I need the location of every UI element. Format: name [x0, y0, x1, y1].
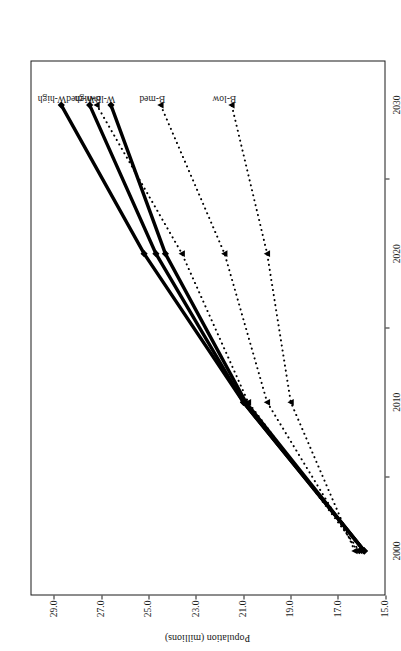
series-label-w-high: W-high — [37, 93, 66, 103]
y-tick-mark — [148, 595, 149, 599]
x-tick-label: 2030 — [392, 95, 401, 114]
series-label-b-med: B-med — [139, 93, 165, 103]
data-point-marker — [287, 398, 293, 405]
y-tick-mark — [337, 595, 338, 599]
series-line — [231, 105, 354, 551]
series-label-b-low: B-low — [212, 93, 236, 103]
series-w-med — [86, 101, 368, 554]
rotated-chart-canvas: 29.027.025.023.021.019.017.015.0 2000201… — [0, 0, 401, 651]
series-b-low — [228, 101, 357, 554]
x-minor-tick-mark — [385, 327, 389, 328]
x-minor-tick-mark — [385, 476, 389, 477]
data-point-marker — [263, 398, 269, 405]
y-tick-mark — [195, 595, 196, 599]
series-line — [89, 105, 364, 551]
series-label-w-low: W-low — [89, 93, 115, 103]
chart-figure: 29.027.025.023.021.019.017.015.0 2000201… — [0, 0, 401, 651]
data-point-marker — [351, 547, 357, 554]
x-minor-tick-mark — [385, 178, 389, 179]
series-line — [110, 105, 363, 551]
data-point-marker — [178, 250, 184, 257]
y-tick-mark — [243, 595, 244, 599]
y-tick-mark — [53, 595, 54, 599]
series-w-low — [107, 101, 367, 554]
series-line — [61, 105, 364, 551]
x-tick-label: 2020 — [392, 244, 401, 263]
series-line — [160, 105, 356, 551]
x-tick-label: 2010 — [392, 392, 401, 411]
y-axis-title: Population (millions) — [164, 632, 249, 642]
series-b-med — [157, 101, 360, 554]
series-w-high — [57, 101, 367, 554]
y-tick-mark — [101, 595, 102, 599]
y-tick-mark — [385, 595, 386, 599]
y-tick-mark — [290, 595, 291, 599]
x-tick-label: 2000 — [392, 541, 401, 560]
